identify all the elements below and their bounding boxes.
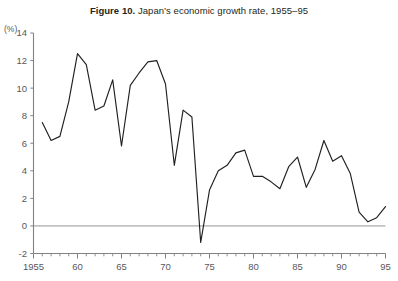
- y-tick-label: 14: [16, 27, 27, 38]
- x-tick-label: 60: [72, 261, 83, 272]
- x-axis-ticks: 19556065707580859095: [23, 254, 391, 272]
- growth-rate-line: [42, 54, 385, 243]
- x-tick-label: 80: [248, 261, 259, 272]
- x-tick-label: 1955: [23, 261, 44, 272]
- y-tick-label: 6: [22, 138, 27, 149]
- figure-container: Figure 10. Japan’s economic growth rate,…: [0, 0, 398, 281]
- x-tick-label: 65: [116, 261, 127, 272]
- x-tick-label: 75: [204, 261, 215, 272]
- x-tick-label: 70: [160, 261, 171, 272]
- y-tick-label: 8: [22, 110, 27, 121]
- y-tick-label: 12: [16, 55, 27, 66]
- y-tick-label: 2: [22, 193, 27, 204]
- y-tick-label: 0: [22, 220, 27, 231]
- x-tick-label: 85: [292, 261, 303, 272]
- x-tick-label: 95: [380, 261, 391, 272]
- x-tick-label: 90: [336, 261, 347, 272]
- y-axis-ticks: -202468101214: [16, 27, 33, 259]
- y-tick-label: 4: [22, 165, 27, 176]
- y-tick-label: 10: [16, 83, 27, 94]
- y-tick-label: -2: [19, 248, 27, 259]
- line-chart: -202468101214 19556065707580859095: [0, 0, 398, 281]
